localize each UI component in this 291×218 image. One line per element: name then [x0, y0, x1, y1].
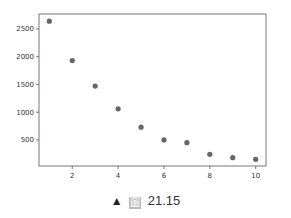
- y-tick-label: 1500: [16, 81, 34, 89]
- data-point: [230, 155, 235, 160]
- y-tick-label: 1000: [16, 109, 34, 117]
- data-point: [138, 125, 143, 130]
- plot-frame: [39, 14, 266, 166]
- x-axis: 246810: [70, 166, 260, 180]
- data-point: [47, 19, 52, 24]
- data-point: [70, 58, 75, 63]
- data-point: [253, 157, 258, 162]
- x-tick-label: 2: [70, 172, 74, 180]
- y-tick-label: 2500: [16, 25, 34, 33]
- data-point: [93, 84, 98, 89]
- data-point: [116, 106, 121, 111]
- x-tick-label: 10: [251, 172, 260, 180]
- figure-glyph: 圖: [129, 197, 141, 209]
- data-point: [207, 152, 212, 157]
- data-point: [184, 140, 189, 145]
- data-points: [47, 19, 259, 162]
- y-axis: 5001000150020002500: [16, 25, 39, 144]
- triangle-icon: ▲: [111, 194, 123, 208]
- data-point: [161, 137, 166, 142]
- x-tick-label: 4: [116, 172, 121, 180]
- y-tick-label: 500: [21, 136, 34, 144]
- x-tick-label: 8: [208, 172, 212, 180]
- scatter-chart: 5001000150020002500 246810: [0, 0, 291, 190]
- figure-caption: ▲ 圖 21.15: [0, 193, 291, 209]
- y-tick-label: 2000: [16, 53, 34, 61]
- x-tick-label: 6: [162, 172, 167, 180]
- figure-number: 21.15: [148, 193, 181, 208]
